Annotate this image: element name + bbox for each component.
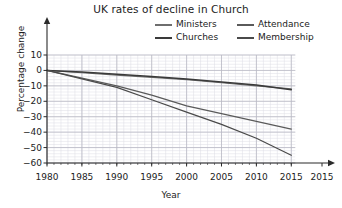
x-tick-label: 2015: [302, 172, 342, 182]
chart-container: UK rates of decline in Church Ministers …: [0, 0, 342, 208]
